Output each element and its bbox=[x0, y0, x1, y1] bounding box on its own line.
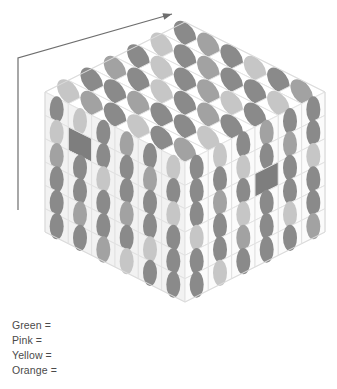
legend-item-green: Green = bbox=[12, 318, 162, 333]
legend-label-orange: Orange bbox=[12, 364, 48, 376]
legend-equals-yellow: = bbox=[46, 349, 52, 361]
legend-equals-pink: = bbox=[36, 334, 42, 346]
legend-equals-orange: = bbox=[51, 364, 57, 376]
legend-label-green: Green bbox=[12, 319, 42, 331]
arrowhead-icon bbox=[162, 13, 172, 20]
legend-equals-green: = bbox=[45, 319, 51, 331]
legend-item-orange: Orange = bbox=[12, 363, 162, 378]
legend-label-yellow: Yellow bbox=[12, 349, 43, 361]
legend-item-yellow: Yellow = bbox=[12, 348, 162, 363]
figure-container: Green = Pink = Yellow = Orange = bbox=[0, 0, 337, 389]
legend-label-pink: Pink bbox=[12, 334, 33, 346]
color-legend: Green = Pink = Yellow = Orange = bbox=[12, 318, 162, 378]
legend-item-pink: Pink = bbox=[12, 333, 162, 348]
cube-faces-group bbox=[45, 17, 325, 302]
